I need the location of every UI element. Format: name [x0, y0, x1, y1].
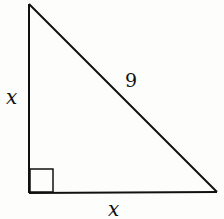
triangle-figure: x 9 x [0, 0, 224, 219]
right-angle-marker [30, 169, 53, 192]
bottom-leg-label: x [108, 197, 119, 219]
diagram-canvas: x 9 x [0, 0, 224, 219]
left-leg-label: x [6, 85, 17, 109]
hypotenuse-label: 9 [125, 69, 137, 91]
bottom-leg [29, 192, 217, 193]
hypotenuse [29, 4, 217, 192]
